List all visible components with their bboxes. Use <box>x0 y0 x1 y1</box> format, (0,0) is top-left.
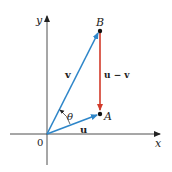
point-b <box>98 29 102 33</box>
y-axis-label: y <box>35 14 43 27</box>
point-b-label: B <box>95 16 104 29</box>
x-axis-label: x <box>155 137 162 150</box>
vector-diagram: B A v u u − v θ x y 0 <box>0 0 172 172</box>
point-a <box>98 112 102 116</box>
vector-u-label: u <box>80 124 87 135</box>
origin-label: 0 <box>37 137 43 148</box>
vector-v-label: v <box>64 69 72 80</box>
angle-theta-label: θ <box>67 111 73 122</box>
point-a-label: A <box>103 110 112 123</box>
vector-u-minus-v-label: u − v <box>104 70 130 80</box>
